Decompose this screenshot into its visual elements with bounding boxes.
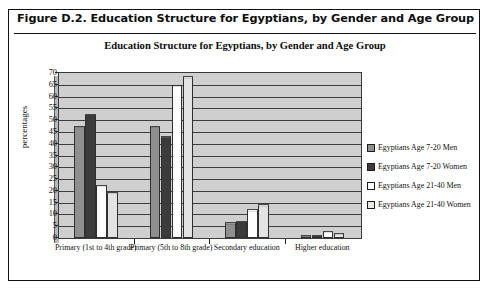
bar [183,78,194,238]
bar [247,211,258,238]
x-axis-tick-labels: Primary (1st to 4th grade)Primary (5th t… [58,243,362,277]
bar [85,115,96,238]
y-tick-mark [55,119,58,120]
y-tick-mark [55,202,58,203]
legend-item[interactable]: Egyptians Age 7-20 Women [367,157,479,176]
y-tick-mark [55,131,58,132]
plot-area [58,72,362,239]
x-tick-label: Primary (1st to 4th grade) [54,243,138,253]
figure-frame: Figure D.2. Education Structure for Egyp… [8,9,480,281]
bar [258,206,269,238]
gridline [59,85,361,86]
x-tick-label: Secondary education [205,243,289,253]
bar [301,236,312,238]
legend-swatch-icon [367,201,375,209]
gridline [59,120,361,121]
bar [323,232,334,238]
gridline [59,238,361,239]
bar [107,193,118,238]
bar [74,127,85,238]
x-tick-mark [285,239,286,244]
bar [96,186,107,238]
y-tick-mark [55,166,58,167]
legend-swatch-icon [367,163,375,171]
y-tick-mark [55,213,58,214]
bar [334,234,345,238]
y-tick-mark [55,178,58,179]
legend-item[interactable]: Egyptians Age 21-40 Men [367,176,479,195]
x-tick-label: Higher education [281,243,365,253]
gridline [59,132,361,133]
bar [225,224,236,238]
y-tick-mark [55,155,58,156]
legend-item-label: Egyptians Age 21-40 Women [378,200,471,209]
y-tick-mark [55,237,58,238]
legend-swatch-icon [367,144,375,152]
y-tick-mark [55,225,58,226]
gridline [59,97,361,98]
y-tick-mark [55,96,58,97]
gridline [59,108,361,109]
legend-swatch-icon [367,182,375,190]
gridline [59,167,361,168]
gridline [59,179,361,180]
bar [236,222,247,238]
y-tick-mark [55,190,58,191]
y-axis-tick-labels: 7065605550454035302520151050 [33,67,57,244]
x-tick-label: Primary (5th to 8th grade) [130,243,214,253]
legend-item-label: Egyptians Age 21-40 Men [378,181,461,190]
bar [161,138,172,238]
bar [172,86,183,238]
legend-item[interactable]: Egyptians Age 7-20 Men [367,138,479,157]
chart-canvas: percentages 7065605550454035302520151050… [9,10,481,282]
y-axis-title: percentages [19,67,29,187]
gridline [59,156,361,157]
legend-item[interactable]: Egyptians Age 21-40 Women [367,195,479,214]
x-tick-mark [134,239,135,244]
y-tick-mark [55,84,58,85]
bar [312,236,323,238]
y-tick-mark [55,143,58,144]
legend-item-label: Egyptians Age 7-20 Men [378,143,457,152]
legend-item-label: Egyptians Age 7-20 Women [378,162,467,171]
gridline [59,144,361,145]
chart-legend: Egyptians Age 7-20 MenEgyptians Age 7-20… [367,138,479,214]
y-tick-mark [55,72,58,73]
y-tick-mark [55,107,58,108]
x-tick-mark [209,239,210,244]
bar [150,127,161,238]
